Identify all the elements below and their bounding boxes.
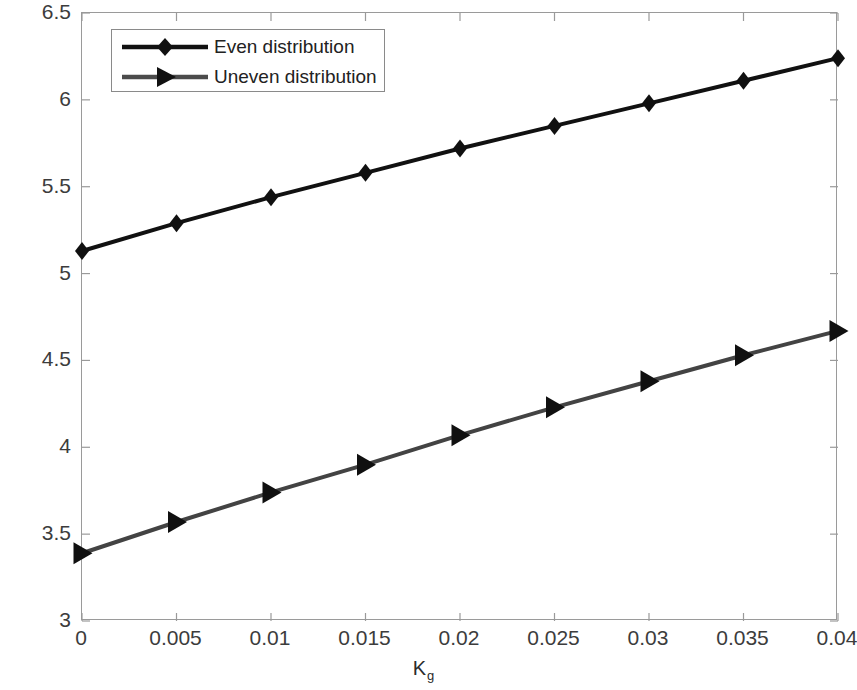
data-point-marker: [170, 214, 184, 232]
x-tick-label: 0.01: [250, 626, 291, 650]
y-tick-label: 5.5: [1, 174, 71, 198]
data-point-marker: [168, 511, 187, 533]
data-series-uneven: [74, 320, 849, 564]
legend-item-even[interactable]: Even distribution: [112, 31, 384, 62]
x-tick-label: 0.02: [439, 626, 480, 650]
data-point-marker: [75, 242, 89, 260]
legend-sample-uneven: [120, 64, 210, 90]
y-tick-label: 4: [1, 434, 71, 458]
x-tick-label: 0.04: [817, 626, 857, 650]
x-axis-label: Kg: [0, 657, 846, 680]
x-axis-label-subscript: g: [427, 668, 434, 683]
legend-sample-even: [120, 34, 210, 60]
data-point-marker: [641, 370, 660, 392]
x-tick-label: 0.035: [716, 626, 769, 650]
legend-label-even: Even distribution: [214, 36, 354, 58]
x-axis-label-base: K: [413, 657, 426, 679]
x-tick-label: 0.03: [628, 626, 669, 650]
data-point-marker: [546, 396, 565, 418]
data-point-marker: [359, 164, 373, 182]
tick-marks-layer: [82, 13, 838, 621]
data-point-marker: [453, 139, 467, 157]
data-point-marker: [74, 542, 93, 564]
y-tick-label: 6.5: [1, 0, 71, 24]
data-point-marker: [735, 344, 754, 366]
x-tick-label: 0.015: [338, 626, 391, 650]
legend-swatch-uneven-icon: [120, 64, 210, 90]
y-tick-label: 6: [1, 87, 71, 111]
data-point-marker: [548, 117, 562, 135]
y-tick-label: 5: [1, 261, 71, 285]
data-point-marker: [452, 424, 471, 446]
data-point-marker: [737, 72, 751, 90]
legend-label-uneven: Uneven distribution: [214, 66, 377, 88]
data-point-marker: [831, 49, 845, 67]
legend-item-uneven[interactable]: Uneven distribution: [112, 61, 384, 92]
data-point-marker: [264, 188, 278, 206]
x-tick-label: 0.025: [527, 626, 580, 650]
x-tick-label: 0.005: [149, 626, 202, 650]
chart-legend: Even distribution Uneven distribution: [111, 29, 385, 92]
series-line: [82, 331, 838, 553]
y-tick-label: 4.5: [1, 347, 71, 371]
data-point-marker: [642, 94, 656, 112]
data-series-layer: [74, 49, 849, 564]
data-point-marker: [357, 454, 376, 476]
chart-plot-svg: [82, 13, 838, 621]
legend-swatch-even-icon: [120, 34, 210, 60]
data-point-marker: [263, 481, 282, 503]
y-tick-label: 3: [1, 608, 71, 632]
plot-area: [81, 12, 837, 620]
data-point-marker: [830, 320, 849, 342]
x-tick-label: 0: [75, 626, 87, 650]
y-tick-label: 3.5: [1, 521, 71, 545]
